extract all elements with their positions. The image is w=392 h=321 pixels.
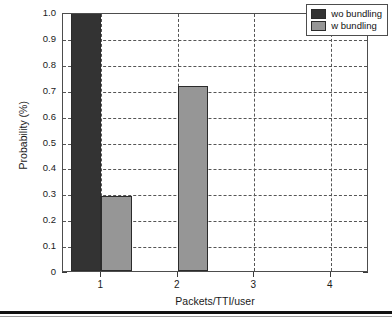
y-tick-label: 0.2 (26, 215, 56, 225)
y-tick-mark-right (363, 272, 368, 273)
bar-w-bundling-x1 (101, 196, 132, 271)
plot-area (62, 13, 368, 272)
x-tick-label: 3 (241, 280, 265, 290)
gridline-horizontal (63, 92, 367, 93)
y-tick-label: 0.1 (26, 241, 56, 251)
gridline-horizontal (63, 66, 367, 67)
bar-wo-bundling-x1 (71, 13, 102, 271)
y-tick-label: 1.0 (26, 8, 56, 18)
gridline-vertical (254, 14, 255, 271)
y-tick-label: 0.9 (26, 34, 56, 44)
y-tick-label: 0.5 (26, 138, 56, 148)
legend-item-wo-bundling: wo bundling (311, 8, 382, 20)
x-tick-mark (253, 272, 254, 277)
page-bottom-rule-secondary (0, 316, 392, 317)
gridline-horizontal (63, 40, 367, 41)
legend: wo bundling w bundling (306, 4, 388, 36)
gridline-horizontal (63, 144, 367, 145)
y-tick-label: 0.8 (26, 60, 56, 70)
y-tick-mark (62, 272, 67, 273)
x-tick-label: 4 (318, 280, 342, 290)
legend-swatch-w-bundling (311, 21, 326, 31)
chart-figure: Probability (%) 00.10.20.30.40.50.60.70.… (0, 0, 392, 321)
x-tick-mark (177, 272, 178, 277)
x-tick-label: 1 (88, 280, 112, 290)
legend-label-w-bundling: w bundling (331, 21, 376, 31)
y-tick-label: 0.3 (26, 189, 56, 199)
y-tick-label: 0.6 (26, 112, 56, 122)
x-tick-label: 2 (165, 280, 189, 290)
x-axis-title: Packets/TTI/user (62, 296, 368, 307)
y-tick-label: 0.7 (26, 86, 56, 96)
legend-swatch-wo-bundling (311, 9, 326, 19)
x-tick-mark (330, 272, 331, 277)
y-tick-label: 0.4 (26, 163, 56, 173)
x-tick-mark (100, 272, 101, 277)
y-tick-label: 0 (26, 267, 56, 277)
gridline-horizontal (63, 169, 367, 170)
page-bottom-rule (0, 311, 392, 314)
gridline-vertical (331, 14, 332, 271)
legend-item-w-bundling: w bundling (311, 20, 382, 32)
bar-w-bundling-x2 (178, 86, 209, 271)
gridline-horizontal (63, 118, 367, 119)
legend-label-wo-bundling: wo bundling (331, 9, 382, 19)
